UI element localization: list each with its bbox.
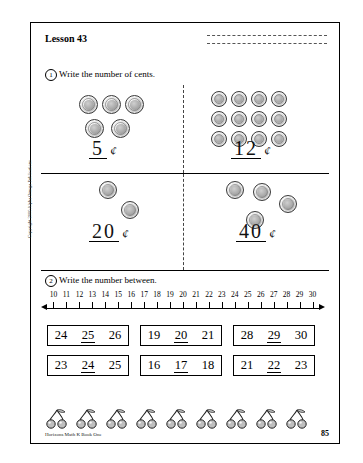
name-line-2	[207, 43, 327, 44]
name-line-area	[207, 35, 327, 51]
page-number: 85	[321, 429, 329, 438]
number-line-label: 14	[102, 290, 110, 299]
cent-symbol: ¢	[264, 143, 271, 158]
box-left-number: 21	[241, 358, 254, 373]
number-between-box[interactable]: 232425	[47, 355, 129, 376]
exercise2-instruction: Write the number between.	[59, 275, 157, 285]
answer-top-right[interactable]: 12¢	[231, 138, 271, 159]
cent-symbol: ¢	[122, 226, 129, 241]
number-line-tick	[235, 302, 236, 309]
number-line-tick	[183, 302, 184, 309]
answer-bottom-left[interactable]: 20¢	[89, 221, 129, 242]
number-line: 1011121314151617181920212223242526272829…	[47, 299, 319, 317]
number-line-tick	[300, 302, 301, 309]
lesson-title: Lesson 43	[45, 33, 87, 44]
number-line-label: 24	[231, 290, 239, 299]
number-line-tick	[92, 302, 93, 309]
number-line-tick	[79, 302, 80, 309]
nickel-coin	[102, 95, 121, 114]
number-line-label: 27	[270, 290, 278, 299]
penny-coin	[251, 111, 267, 127]
penny-coin	[231, 91, 247, 107]
number-line-tick	[66, 302, 67, 309]
cherry-icon	[165, 409, 189, 431]
cherry-decoration-row	[45, 409, 325, 431]
dime-coin	[121, 201, 139, 219]
box-middle-answer: 25	[81, 328, 96, 343]
cherry-icon	[255, 409, 279, 431]
section-divider	[41, 270, 329, 271]
grid-horizontal-divider	[41, 173, 329, 174]
number-line-tick	[287, 302, 288, 309]
number-line-label: 18	[153, 290, 161, 299]
number-line-label: 20	[179, 290, 187, 299]
answer-bottom-right[interactable]: 40¢	[236, 221, 276, 242]
answer-value: 20	[89, 221, 119, 242]
dime-coin	[99, 181, 117, 199]
answer-box-row-2: 232425161718212223	[47, 355, 315, 376]
number-line-tick	[105, 302, 106, 309]
exercise2-number: 2	[45, 275, 57, 287]
nickel-coin	[111, 119, 130, 138]
cherry-icon	[105, 409, 129, 431]
worksheet-page: Lesson 43 1 Write the number of cents. 5…	[0, 0, 363, 463]
number-between-box[interactable]: 192021	[140, 325, 222, 346]
number-line-label: 23	[218, 290, 226, 299]
box-middle-answer: 17	[174, 358, 189, 373]
answer-box-row-1: 242526192021282930	[47, 325, 315, 346]
cherry-icon	[45, 409, 69, 431]
number-line-label: 16	[127, 290, 135, 299]
box-right-number: 23	[295, 358, 308, 373]
number-line-tick	[157, 302, 158, 309]
number-line-tick	[209, 302, 210, 309]
penny-coin	[271, 91, 287, 107]
side-copyright: Copyright 2000 Alpha Omega Publications	[27, 160, 32, 238]
box-left-number: 19	[148, 328, 161, 343]
cherry-icon	[285, 409, 309, 431]
penny-coin	[211, 131, 227, 147]
dime-coin	[253, 183, 271, 201]
number-line-label: 25	[244, 290, 252, 299]
number-between-box[interactable]: 242526	[47, 325, 129, 346]
worksheet-sheet: Lesson 43 1 Write the number of cents. 5…	[30, 22, 340, 444]
box-left-number: 23	[55, 358, 68, 373]
number-between-box[interactable]: 282930	[233, 325, 315, 346]
cherry-icon	[135, 409, 159, 431]
number-line-tick	[131, 302, 132, 309]
penny-coin	[251, 91, 267, 107]
number-between-box[interactable]: 212223	[233, 355, 315, 376]
number-line-label: 15	[114, 290, 122, 299]
exercise1-number: 1	[45, 69, 57, 81]
number-line-label: 11	[63, 290, 70, 299]
cherry-icon	[75, 409, 99, 431]
box-left-number: 28	[241, 328, 254, 343]
answer-value: 12	[231, 138, 261, 159]
number-line-tick	[313, 302, 314, 309]
grid-vertical-divider-top	[183, 85, 184, 173]
answer-top-left[interactable]: 5¢	[89, 138, 117, 159]
cent-symbol: ¢	[110, 143, 117, 158]
number-line-tick	[196, 302, 197, 309]
dime-coin	[226, 181, 244, 199]
cherry-icon	[195, 409, 219, 431]
exercise1-instruction-block: 1 Write the number of cents.	[45, 69, 155, 81]
number-line-tick	[222, 302, 223, 309]
penny-coin	[211, 111, 227, 127]
nickel-coin	[79, 95, 98, 114]
number-line-tick	[274, 302, 275, 309]
penny-coin	[271, 131, 287, 147]
number-line-arrow-left	[41, 304, 47, 310]
grid-vertical-divider-bottom	[183, 174, 184, 270]
box-right-number: 21	[202, 328, 215, 343]
answer-value: 5	[89, 138, 107, 159]
dime-coin	[279, 195, 297, 213]
cent-symbol: ¢	[269, 226, 276, 241]
box-middle-answer: 22	[267, 358, 282, 373]
number-line-label: 13	[89, 290, 97, 299]
number-line-tick	[118, 302, 119, 309]
penny-coin	[231, 111, 247, 127]
number-line-tick	[53, 302, 54, 309]
box-right-number: 18	[202, 358, 215, 373]
number-line-label: 29	[296, 290, 304, 299]
number-between-box[interactable]: 161718	[140, 355, 222, 376]
